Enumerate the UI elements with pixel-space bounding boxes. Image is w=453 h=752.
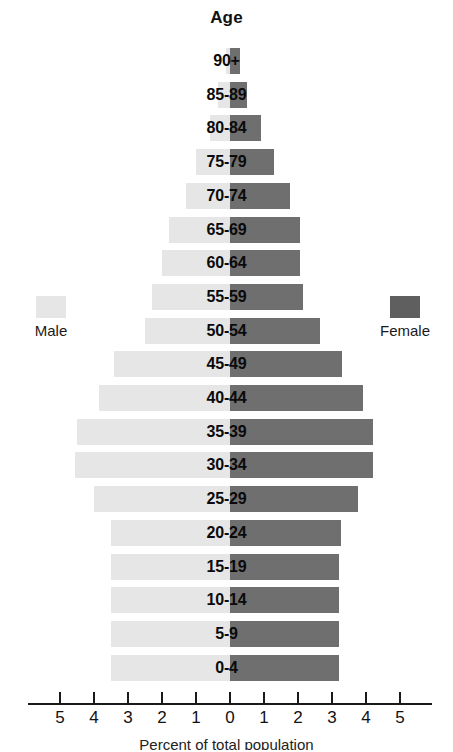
legend-swatch-male [36, 296, 66, 318]
pyramid-row: 90+ [0, 48, 453, 74]
axis-tick [331, 692, 333, 703]
axis-line [28, 703, 432, 705]
legend-label-male: Male [14, 322, 88, 339]
age-group-label: 35-39 [0, 419, 453, 445]
age-group-label: 65-69 [0, 217, 453, 243]
age-group-label: 20-24 [0, 520, 453, 546]
axis-tick [59, 692, 61, 703]
axis-tick-label: 5 [387, 708, 413, 728]
population-pyramid-chart: Age 90+85-8980-8475-7970-7465-6960-6455-… [0, 0, 453, 752]
age-group-label: 60-64 [0, 250, 453, 276]
pyramid-row: 85-89 [0, 82, 453, 108]
age-group-label: 75-79 [0, 149, 453, 175]
age-group-label: 70-74 [0, 183, 453, 209]
age-group-label: 10-14 [0, 587, 453, 613]
x-axis: 54321012345 Percent of total population [0, 692, 453, 752]
legend-item-female: Female [368, 296, 442, 339]
age-group-label: 40-44 [0, 385, 453, 411]
axis-tick [263, 692, 265, 703]
age-group-label: 85-89 [0, 82, 453, 108]
axis-tick-label: 3 [319, 708, 345, 728]
axis-tick-label: 1 [183, 708, 209, 728]
pyramid-row: 45-49 [0, 351, 453, 377]
axis-tick [93, 692, 95, 703]
legend-swatch-female [390, 296, 420, 318]
pyramid-row: 35-39 [0, 419, 453, 445]
pyramid-row: 40-44 [0, 385, 453, 411]
pyramid-row: 20-24 [0, 520, 453, 546]
axis-tick [399, 692, 401, 703]
age-group-label: 80-84 [0, 115, 453, 141]
pyramid-row: 70-74 [0, 183, 453, 209]
pyramid-row: 75-79 [0, 149, 453, 175]
age-group-label: 0-4 [0, 655, 453, 681]
axis-tick-label: 3 [115, 708, 141, 728]
pyramid-row: 80-84 [0, 115, 453, 141]
pyramid-row: 30-34 [0, 452, 453, 478]
legend-item-male: Male [14, 296, 88, 339]
pyramid-row: 25-29 [0, 486, 453, 512]
axis-tick [229, 692, 231, 703]
pyramid-row: 0-4 [0, 655, 453, 681]
age-group-label: 15-19 [0, 554, 453, 580]
axis-tick-label: 2 [285, 708, 311, 728]
age-group-label: 45-49 [0, 351, 453, 377]
plot-area: 90+85-8980-8475-7970-7465-6960-6455-5950… [0, 40, 453, 692]
axis-tick-label: 1 [251, 708, 277, 728]
pyramid-row: 5-9 [0, 621, 453, 647]
age-group-label: 90+ [0, 48, 453, 74]
pyramid-row: 60-64 [0, 250, 453, 276]
axis-tick [161, 692, 163, 703]
axis-tick-label: 4 [81, 708, 107, 728]
axis-tick-label: 0 [217, 708, 243, 728]
axis-tick-label: 4 [353, 708, 379, 728]
age-group-label: 5-9 [0, 621, 453, 647]
pyramid-row: 15-19 [0, 554, 453, 580]
page-title: Age [0, 8, 453, 28]
age-group-label: 25-29 [0, 486, 453, 512]
axis-tick-label: 5 [47, 708, 73, 728]
pyramid-row: 65-69 [0, 217, 453, 243]
legend-label-female: Female [368, 322, 442, 339]
axis-tick [297, 692, 299, 703]
axis-tick [127, 692, 129, 703]
pyramid-row: 10-14 [0, 587, 453, 613]
axis-tick [365, 692, 367, 703]
age-group-label: 30-34 [0, 452, 453, 478]
axis-tick [195, 692, 197, 703]
x-axis-title: Percent of total population [0, 736, 453, 750]
axis-tick-label: 2 [149, 708, 175, 728]
